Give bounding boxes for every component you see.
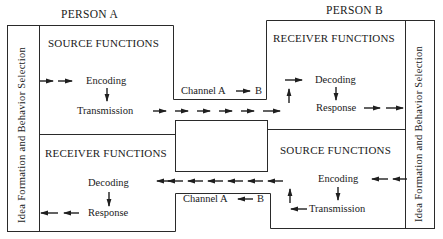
channel-a-b-suffix: B	[255, 86, 262, 97]
person-b-side-bar-label: Idea Formation and Behavior Selection	[414, 46, 425, 222]
person-a-decoding: Decoding	[88, 178, 129, 189]
person-a-source-heading: SOURCE FUNCTIONS	[48, 38, 159, 49]
person-b-source-heading: SOURCE FUNCTIONS	[280, 145, 391, 156]
person-a-side-bar-label: Idea Formation and Behavior Selection	[17, 47, 28, 223]
person-b-decoding: Decoding	[315, 75, 356, 86]
person-a-response: Response	[88, 208, 128, 219]
person-b-encoding: Encoding	[318, 174, 358, 185]
person-a-title: PERSON A	[61, 9, 118, 21]
middle-box	[176, 121, 268, 172]
person-a-encoding: Encoding	[86, 76, 126, 87]
person-b-receiver-heading: RECEIVER FUNCTIONS	[273, 33, 395, 44]
channel-b-a-suffix: B	[257, 194, 264, 205]
person-b-title: PERSON B	[326, 5, 383, 17]
person-a-receiver-heading: RECEIVER FUNCTIONS	[45, 148, 167, 159]
person-a-transmission: Transmission	[77, 106, 133, 117]
channel-b-a-label: Channel A	[183, 194, 228, 205]
person-b-transmission: Transmission	[309, 204, 365, 215]
person-b-response: Response	[316, 103, 356, 114]
channel-a-b-label: Channel A	[181, 86, 226, 97]
